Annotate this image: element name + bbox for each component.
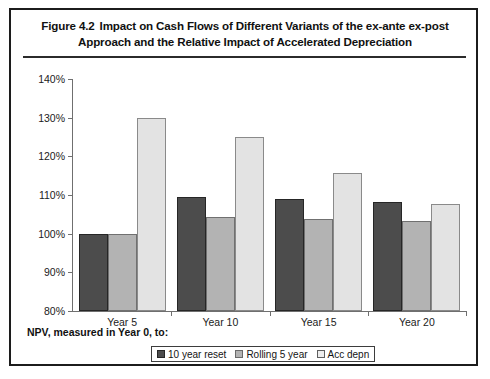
legend-swatch-icon [157,350,165,358]
legend-label: 10 year reset [168,349,226,360]
y-tick-label: 130% [38,112,65,124]
figure-title-line1: Impact on Cash Flows of Different Varian… [100,19,449,32]
bar-group [79,79,166,311]
legend-label: Rolling 5 year [246,349,307,360]
legend-swatch-icon [317,350,325,358]
bar-group [177,79,264,311]
bar[interactable] [304,219,333,311]
figure-number: Figure 4.2 [41,19,94,32]
figure-frame: Figure 4.2Impact on Cash Flows of Differ… [9,8,478,366]
legend-item[interactable]: 10 year reset [157,349,226,360]
bar-group [275,79,362,311]
y-tick-mark [68,79,73,80]
y-tick-label: 110% [39,189,65,201]
bar[interactable] [333,173,362,311]
bar[interactable] [235,137,264,311]
y-tick-label: 140% [38,73,65,85]
y-tick-label: 90% [44,266,65,278]
y-tick-mark [68,272,73,273]
figure-title: Figure 4.2Impact on Cash Flows of Differ… [25,18,465,50]
bar-group [373,79,460,311]
legend-item[interactable]: Rolling 5 year [235,349,307,360]
y-tick-mark [68,156,73,157]
x-tick-mark [466,311,467,316]
legend-label: Acc depn [328,349,370,360]
x-tick-mark [171,311,172,316]
y-tick-label: 120% [38,150,65,162]
bar[interactable] [431,204,460,311]
axis-note: NPV, measured in Year 0, to: [27,326,168,338]
x-tick-mark [270,311,271,316]
bar[interactable] [79,234,108,311]
y-tick-label: 100% [38,228,65,240]
bar[interactable] [137,118,166,311]
legend-swatch-icon [235,350,243,358]
bar[interactable] [275,199,304,311]
x-category-label: Year 10 [202,316,238,328]
y-tick-mark [68,234,73,235]
x-tick-mark [368,311,369,316]
bar[interactable] [373,202,402,311]
bar[interactable] [206,217,235,311]
bar[interactable] [402,221,431,311]
x-category-label: Year 15 [301,316,337,328]
y-tick-mark [68,195,73,196]
y-tick-mark [68,118,73,119]
y-tick-label: 80% [44,305,65,317]
title-divider [23,56,466,58]
bar[interactable] [108,234,137,311]
bar[interactable] [177,197,206,311]
figure-title-line2: Approach and the Relative Impact of Acce… [78,35,412,48]
y-tick-mark [68,311,73,312]
chart-plot-area: 80%90%100%110%120%130%140% Year 5Year 10… [73,79,466,311]
x-category-label: Year 20 [399,316,435,328]
legend-item[interactable]: Acc depn [317,349,370,360]
chart-legend: 10 year resetRolling 5 yearAcc depn [151,346,375,362]
